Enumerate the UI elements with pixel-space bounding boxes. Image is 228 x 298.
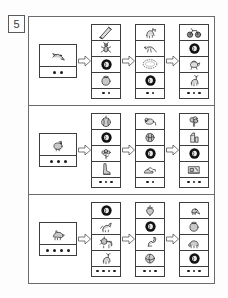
count-dot: [193, 181, 196, 184]
cat-icon[interactable]: [136, 25, 164, 41]
boar-icon: [40, 223, 76, 245]
horse-icon[interactable]: [92, 219, 120, 235]
answer-column[interactable]: [135, 113, 165, 188]
count-dot: [198, 181, 201, 184]
deer-icon[interactable]: [180, 73, 208, 89]
bird-perched-icon[interactable]: [180, 203, 208, 219]
count-dot: [67, 249, 70, 252]
count-dot: [187, 92, 190, 95]
count-dot: [143, 270, 146, 273]
pumpkin-icon[interactable]: [92, 114, 120, 130]
tomato-icon[interactable]: [92, 73, 120, 89]
bird-flying-icon: [40, 45, 76, 67]
dark-ring-icon[interactable]: [136, 73, 164, 89]
motorcycle-icon[interactable]: [180, 25, 208, 41]
exercise-row: [29, 17, 214, 106]
deer-icon[interactable]: [92, 251, 120, 267]
column-dots: [136, 178, 164, 187]
strawberry-icon[interactable]: [136, 203, 164, 219]
arrow-right-icon: [121, 144, 135, 156]
boot-icon[interactable]: [92, 162, 120, 178]
milk-carton-icon[interactable]: [180, 130, 208, 146]
dark-ring-icon[interactable]: [180, 146, 208, 162]
elephant-icon[interactable]: [180, 235, 208, 251]
answer-column[interactable]: [179, 24, 209, 99]
exercise-number: 5: [8, 15, 25, 33]
arrow-right-icon: [77, 144, 91, 156]
column-dots: [92, 178, 120, 187]
dark-ring-icon[interactable]: [92, 203, 120, 219]
count-dot: [110, 181, 113, 184]
insect-icon[interactable]: [92, 41, 120, 57]
count-dot: [53, 249, 56, 252]
prompt-dots: [40, 67, 76, 77]
oval-wreath-icon[interactable]: [136, 57, 164, 73]
arrow-right-icon: [77, 55, 91, 67]
count-dot: [50, 160, 53, 163]
answer-column[interactable]: [91, 202, 121, 277]
prompt-card[interactable]: [39, 44, 77, 78]
teapot-icon[interactable]: [180, 57, 208, 73]
count-dot: [105, 181, 108, 184]
count-dot: [102, 270, 105, 273]
prompt-dots: [40, 156, 76, 166]
count-dot: [113, 270, 116, 273]
dark-ring-icon[interactable]: [136, 146, 164, 162]
count-dot: [57, 160, 60, 163]
sewing-machine-icon[interactable]: [180, 162, 208, 178]
tomato-icon[interactable]: [180, 219, 208, 235]
count-dot: [60, 249, 63, 252]
count-dot: [60, 71, 63, 74]
dark-ring-icon[interactable]: [136, 219, 164, 235]
answer-column[interactable]: [179, 202, 209, 277]
count-dot: [154, 270, 157, 273]
answer-column[interactable]: [135, 202, 165, 277]
count-dot: [187, 181, 190, 184]
broccoli-icon[interactable]: [180, 114, 208, 130]
hen-icon: [40, 134, 76, 156]
exercise-frame: [28, 16, 215, 284]
count-dot: [193, 92, 196, 95]
shoes-icon[interactable]: [136, 162, 164, 178]
prompt-card[interactable]: [39, 222, 77, 256]
prompt-card[interactable]: [39, 133, 77, 167]
lion-icon[interactable]: [92, 235, 120, 251]
prompt-dots: [40, 245, 76, 255]
answer-column[interactable]: [135, 24, 165, 99]
dark-ring-icon[interactable]: [180, 41, 208, 57]
column-dots: [136, 89, 164, 98]
ball-icon[interactable]: [136, 251, 164, 267]
count-dot: [152, 181, 155, 184]
worksheet-page: 5: [0, 0, 228, 298]
column-dots: [180, 178, 208, 187]
cabbage-icon[interactable]: [136, 130, 164, 146]
arrow-right-icon: [165, 55, 179, 67]
count-dot: [149, 270, 152, 273]
column-dots: [136, 267, 164, 276]
count-dot: [152, 92, 155, 95]
count-dot: [64, 160, 67, 163]
count-dot: [108, 270, 111, 273]
count-dot: [198, 270, 201, 273]
column-dots: [92, 267, 120, 276]
flower-icon[interactable]: [92, 146, 120, 162]
dark-ring-icon[interactable]: [180, 251, 208, 267]
dark-ring-icon[interactable]: [92, 130, 120, 146]
count-dot: [46, 249, 49, 252]
dark-ring-icon[interactable]: [92, 57, 120, 73]
count-dot: [198, 92, 201, 95]
squirrel-icon[interactable]: [136, 235, 164, 251]
column-dots: [92, 89, 120, 98]
pencil-icon[interactable]: [92, 25, 120, 41]
exercise-row: [29, 195, 214, 283]
pheasant-bird-icon[interactable]: [136, 41, 164, 57]
column-dots: [180, 89, 208, 98]
answer-column[interactable]: [91, 113, 121, 188]
answer-column[interactable]: [91, 24, 121, 99]
mouse-icon[interactable]: [136, 114, 164, 130]
answer-column[interactable]: [179, 113, 209, 188]
count-dot: [146, 181, 149, 184]
count-dot: [53, 71, 56, 74]
arrow-right-icon: [77, 233, 91, 245]
column-dots: [180, 267, 208, 276]
